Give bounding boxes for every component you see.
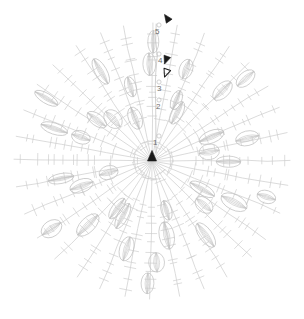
axis-tick-label-3: 3 [157, 85, 161, 93]
axis-tick-label-4: 4 [158, 57, 162, 65]
axis-tick-label-2: 2 [156, 103, 160, 111]
axis-tick-label-5: 5 [155, 28, 159, 36]
marker-mid-filled [161, 55, 170, 65]
radial-diagram-canvas: 54321 [0, 0, 304, 319]
radial-tree-svg [0, 0, 304, 319]
axis-tick-label-1: 1 [153, 139, 157, 147]
marker-top-filled [162, 12, 172, 23]
